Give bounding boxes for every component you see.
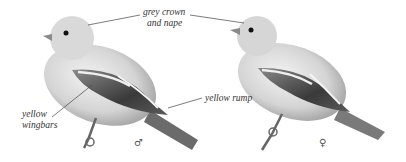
birds-artwork <box>0 0 406 162</box>
label-grey-crown: grey crown <box>143 7 185 18</box>
crown-leader-female <box>190 15 244 23</box>
rump-leader <box>168 98 202 108</box>
label-and-nape: and nape <box>147 18 182 29</box>
label-yellow: yellow <box>22 109 47 120</box>
label-yellow-rump: yellow rump <box>205 93 252 104</box>
female-symbol: ♀ <box>319 137 326 148</box>
label-wingbars: wingbars <box>22 120 57 131</box>
female-bird <box>227 16 385 150</box>
crown-leader-male <box>88 15 140 25</box>
male-symbol: ♂ <box>134 137 143 148</box>
bird-illustration: grey crown and nape yellow wingbars yell… <box>0 0 406 162</box>
